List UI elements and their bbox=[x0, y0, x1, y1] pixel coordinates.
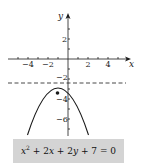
y-tick-label: −6 bbox=[56, 115, 68, 124]
equation-box: x2 + 2x + 2y + 7 = 0 bbox=[13, 139, 124, 163]
y-tick-label: 2 bbox=[62, 35, 67, 44]
y-axis bbox=[68, 16, 70, 136]
equation-text: x2 + 2x + 2y + 7 = 0 bbox=[21, 146, 116, 156]
y-axis-label: y bbox=[57, 11, 64, 21]
focus-point bbox=[56, 91, 60, 95]
x-tick-label: −4 bbox=[22, 60, 34, 69]
y-tick-label: −4 bbox=[56, 95, 68, 104]
x-tick-label: −2 bbox=[42, 60, 54, 69]
x-axis-label: x bbox=[129, 59, 134, 69]
x-tick-label: 4 bbox=[106, 60, 111, 69]
x-tick-label: 2 bbox=[86, 60, 91, 69]
y-tick-label: −2 bbox=[56, 73, 68, 82]
